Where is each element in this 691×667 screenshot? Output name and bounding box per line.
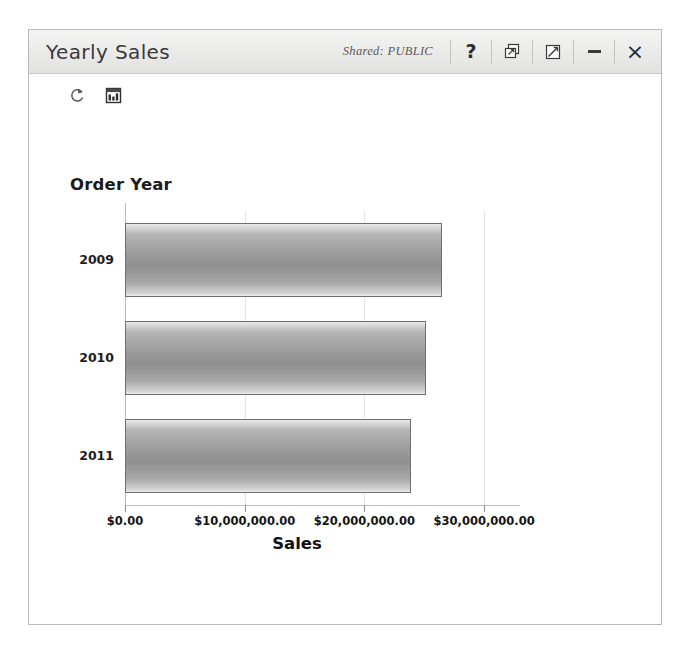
category-label: 2011 — [79, 448, 114, 463]
x-tick-label: $20,000,000.00 — [314, 514, 415, 528]
plot-area: 200920102011 $0.00$10,000,000.00$20,000,… — [125, 211, 520, 505]
question-mark-icon: ? — [465, 42, 476, 61]
category-label: 2010 — [79, 350, 114, 365]
chart-type-icon — [104, 86, 123, 105]
minimize-icon — [588, 50, 601, 53]
report-toolbar — [29, 74, 661, 116]
titlebar-divider-2 — [491, 40, 492, 64]
x-axis-line — [125, 505, 520, 506]
window-title: Yearly Sales — [46, 40, 170, 64]
shared-status-label: Shared: PUBLIC — [343, 44, 433, 59]
chart-container: Order Year 200920102011 $0.00$10,000,000… — [29, 116, 661, 602]
y-axis-title: Order Year — [70, 175, 172, 194]
help-button[interactable]: ? — [458, 39, 484, 65]
x-axis-tick — [245, 505, 246, 512]
titlebar-divider-1 — [450, 40, 451, 64]
x-axis-tick — [125, 505, 126, 512]
x-axis-tick — [364, 505, 365, 512]
minimize-button[interactable] — [581, 39, 607, 65]
window-title-bar: Yearly Sales Shared: PUBLIC ? — [29, 30, 661, 74]
close-button[interactable]: × — [622, 39, 648, 65]
category-label: 2009 — [79, 252, 114, 267]
resize-button[interactable] — [540, 39, 566, 65]
refresh-button[interactable] — [66, 84, 88, 106]
copy-windows-icon — [502, 42, 522, 62]
bar[interactable] — [125, 321, 426, 395]
titlebar-divider-5 — [614, 40, 615, 64]
x-tick-label: $0.00 — [107, 514, 143, 528]
titlebar-divider-4 — [573, 40, 574, 64]
window-controls: ? — [443, 39, 648, 65]
refresh-icon — [68, 86, 86, 104]
report-window: Yearly Sales Shared: PUBLIC ? — [28, 29, 662, 625]
bar[interactable] — [125, 419, 411, 493]
chart-type-button[interactable] — [102, 84, 124, 106]
close-icon: × — [626, 41, 644, 63]
resize-icon — [543, 42, 563, 62]
x-tick-label: $10,000,000.00 — [194, 514, 295, 528]
gridline — [484, 211, 485, 505]
bar[interactable] — [125, 223, 442, 297]
x-tick-label: $30,000,000.00 — [434, 514, 535, 528]
copy-windows-button[interactable] — [499, 39, 525, 65]
x-axis-title: Sales — [272, 534, 322, 553]
titlebar-divider-3 — [532, 40, 533, 64]
x-axis-tick — [484, 505, 485, 512]
